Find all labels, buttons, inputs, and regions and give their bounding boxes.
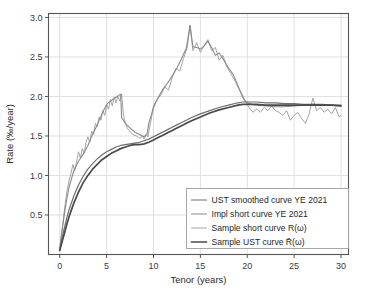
x-tick-label: 30	[336, 261, 346, 271]
y-tick-label: 1.0	[30, 171, 43, 181]
y-tick-label: 0.5	[30, 210, 43, 220]
chart-legend: UST smoothed curve YE 2021Impl short cur…	[187, 189, 349, 249]
y-tick-label: 1.5	[30, 131, 43, 141]
legend-label-1: UST smoothed curve YE 2021	[212, 195, 328, 205]
x-tick-label: 15	[195, 261, 205, 271]
chart-figure: 0510152025300.51.01.52.02.53.0 UST smoot…	[0, 0, 373, 294]
x-tick-label: 25	[289, 261, 299, 271]
y-axis-label: Rate (‰/year)	[4, 104, 15, 164]
legend-label-4: Sample UST curve R̄(ω)	[212, 237, 305, 247]
x-tick-label: 0	[57, 261, 62, 271]
x-axis-label: Tenor (years)	[171, 274, 227, 285]
legend-label-2: Impl short curve YE 2021	[212, 209, 309, 219]
y-tick-label: 2.0	[30, 92, 43, 102]
x-tick-label: 20	[242, 261, 252, 271]
x-tick-label: 10	[148, 261, 158, 271]
plot-area-container: 0510152025300.51.01.52.02.53.0 UST smoot…	[0, 0, 373, 294]
y-tick-label: 3.0	[30, 13, 43, 23]
legend-label-3: Sample short curve R(ω)	[212, 223, 307, 233]
y-tick-label: 2.5	[30, 52, 43, 62]
line-chart: 0510152025300.51.01.52.02.53.0 UST smoot…	[0, 0, 373, 294]
x-tick-label: 5	[104, 261, 109, 271]
